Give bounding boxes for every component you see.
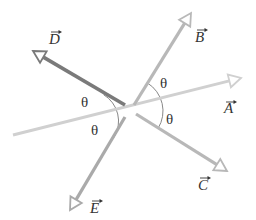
- vector-e-shaft: [76, 117, 125, 200]
- theta-label-1: θ: [81, 94, 88, 110]
- labels-group: ABCDEθθθθ: [48, 28, 237, 216]
- arrowhead-icon: [228, 75, 241, 88]
- theta-label-4: θ: [166, 111, 173, 127]
- vector-label-b: B: [195, 29, 204, 45]
- theta-label-3: θ: [160, 75, 167, 91]
- vector-label-e: E: [89, 200, 99, 216]
- diagram-canvas: ABCDEθθθθ: [0, 0, 256, 220]
- vector-c: [136, 114, 227, 171]
- theta-label-2: θ: [91, 122, 98, 138]
- vector-label-c: C: [198, 177, 209, 193]
- vector-diagram: ABCDEθθθθ: [0, 0, 256, 220]
- vector-label-d: D: [48, 31, 60, 47]
- vector-d: [33, 51, 125, 105]
- vector-a: [13, 75, 241, 135]
- vector-a-shaft: [13, 81, 229, 135]
- vector-c-shaft: [136, 114, 217, 165]
